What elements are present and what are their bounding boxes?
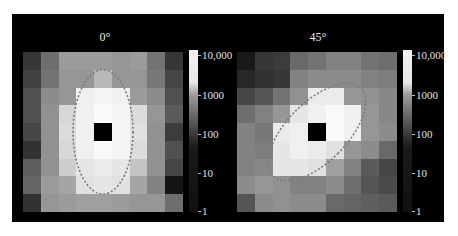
tick-10: 10 <box>416 168 427 179</box>
heatmap-cell <box>94 194 112 212</box>
tick-10000: 10,000 <box>416 50 446 61</box>
heatmap-cell <box>41 88 59 106</box>
heatmap-cell <box>379 141 397 159</box>
heatmap-cell <box>290 88 308 106</box>
tick-100: 100 <box>416 129 433 140</box>
heatmap-cell <box>237 88 255 106</box>
heatmap-cell <box>147 105 165 123</box>
tick-1000: 1000 <box>202 90 224 101</box>
heatmap-cell <box>130 88 148 106</box>
heatmap-cell <box>41 52 59 70</box>
heatmap-cell <box>361 194 379 212</box>
heatmap-cell <box>255 88 273 106</box>
tick-1: 1 <box>416 206 422 217</box>
heatmap-cell <box>237 159 255 177</box>
heatmap-cell <box>94 105 112 123</box>
heatmap-cell <box>379 159 397 177</box>
heatmap-cell <box>94 176 112 194</box>
tick-1: 1 <box>202 206 208 217</box>
heatmap-cell <box>326 176 344 194</box>
heatmap-cell <box>361 105 379 123</box>
heatmap-45deg <box>237 52 397 212</box>
heatmap-cell <box>361 70 379 88</box>
heatmap-cell <box>344 52 362 70</box>
heatmap-cell <box>379 52 397 70</box>
heatmap-cell <box>130 176 148 194</box>
heatmap-cell <box>165 141 183 159</box>
heatmap-cell <box>273 52 291 70</box>
heatmap-cell <box>255 52 273 70</box>
heatmap-cell <box>59 70 77 88</box>
heatmap-cell <box>94 88 112 106</box>
heatmap-cell <box>165 70 183 88</box>
heatmap-cell <box>344 105 362 123</box>
heatmap-cell <box>361 52 379 70</box>
heatmap-cell <box>130 194 148 212</box>
heatmap-cell <box>344 141 362 159</box>
heatmap-cell <box>273 70 291 88</box>
heatmap-cell <box>147 159 165 177</box>
heatmap-cell <box>130 159 148 177</box>
heatmap-cell <box>326 159 344 177</box>
heatmap-cell <box>112 70 130 88</box>
heatmap-cell <box>255 70 273 88</box>
heatmap-cell <box>23 123 41 141</box>
tick-10: 10 <box>202 168 213 179</box>
heatmap-cell <box>76 194 94 212</box>
tick-100: 100 <box>202 129 219 140</box>
heatmap-cell <box>76 52 94 70</box>
heatmap-cell <box>290 105 308 123</box>
heatmap-cell <box>361 141 379 159</box>
heatmap-cell <box>41 159 59 177</box>
figure-panel: 0° 10,000 1000 100 10 1 45° 10,000 1000 … <box>12 14 444 222</box>
heatmap-cell <box>76 70 94 88</box>
heatmap-cell <box>59 159 77 177</box>
heatmap-cell <box>112 52 130 70</box>
heatmap-cell <box>326 52 344 70</box>
heatmap-cell <box>273 141 291 159</box>
heatmap-cell <box>76 123 94 141</box>
heatmap-cell <box>130 123 148 141</box>
tick-10000: 10,000 <box>202 50 232 61</box>
heatmap-cell <box>41 123 59 141</box>
heatmap-cell <box>273 105 291 123</box>
heatmap-cell <box>290 70 308 88</box>
heatmap-cell <box>165 88 183 106</box>
heatmap-cell <box>112 159 130 177</box>
heatmap-cell <box>255 176 273 194</box>
heatmap-cell <box>237 194 255 212</box>
heatmap-cell <box>308 176 326 194</box>
heatmap-cell <box>273 123 291 141</box>
heatmap-cell <box>165 176 183 194</box>
heatmap-cell <box>379 194 397 212</box>
heatmap-cell <box>379 123 397 141</box>
heatmap-cell <box>361 88 379 106</box>
heatmap-cell <box>237 52 255 70</box>
heatmap-cell <box>59 123 77 141</box>
heatmap-cell <box>76 159 94 177</box>
heatmap-cell <box>41 141 59 159</box>
heatmap-cell <box>76 105 94 123</box>
heatmap-cell <box>361 159 379 177</box>
heatmap-cell <box>23 70 41 88</box>
heatmap-cell <box>41 70 59 88</box>
heatmap-cell <box>273 176 291 194</box>
heatmap-cell <box>308 159 326 177</box>
heatmap-cell <box>59 176 77 194</box>
heatmap-cell <box>273 194 291 212</box>
heatmap-cell <box>41 176 59 194</box>
heatmap-cell <box>112 176 130 194</box>
heatmap-cell <box>59 194 77 212</box>
heatmap-cell <box>147 141 165 159</box>
heatmap-cell <box>112 123 130 141</box>
heatmap-cell <box>255 194 273 212</box>
heatmap-cell <box>130 105 148 123</box>
heatmap-cell <box>255 159 273 177</box>
panel-title-0deg: 0° <box>75 30 135 45</box>
heatmap-cell <box>237 176 255 194</box>
heatmap-cell <box>326 123 344 141</box>
colorbar-45deg <box>403 50 412 212</box>
heatmap-cell <box>290 141 308 159</box>
heatmap-cell <box>112 88 130 106</box>
heatmap-cell <box>344 194 362 212</box>
